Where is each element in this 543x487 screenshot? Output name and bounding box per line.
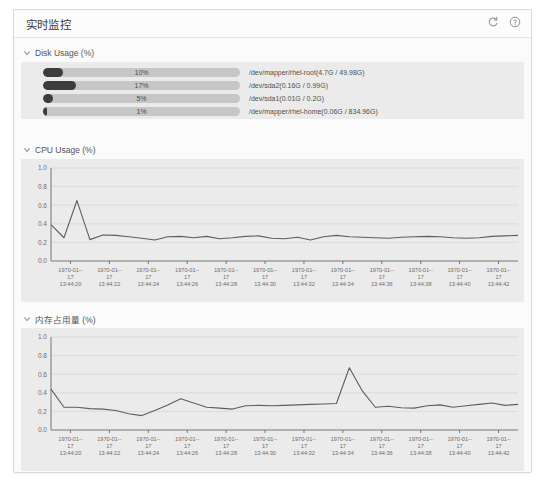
svg-text:1970-01--: 1970-01--	[136, 436, 160, 442]
svg-text:13:44:38: 13:44:38	[410, 450, 432, 456]
svg-text:13:44:20: 13:44:20	[60, 281, 82, 287]
chevron-down-icon[interactable]	[23, 146, 31, 154]
svg-text:13:44:20: 13:44:20	[60, 450, 82, 456]
disk-usage-body: 10% /dev/mapper/rhel-root(4.7G / 49.98G)…	[21, 62, 524, 119]
disk-row: 10% /dev/mapper/rhel-root(4.7G / 49.98G)	[21, 67, 524, 78]
svg-text:0.4: 0.4	[38, 389, 47, 396]
svg-text:17: 17	[184, 274, 190, 280]
disk-percent-label: 10%	[43, 68, 240, 77]
svg-text:1970-01--: 1970-01--	[97, 267, 121, 273]
svg-text:1970-01--: 1970-01--	[331, 436, 355, 442]
section-cpu-usage: CPU Usage (%) 0.00.20.40.60.81.01970-01-…	[14, 143, 531, 302]
svg-text:1970-01--: 1970-01--	[253, 436, 277, 442]
svg-text:0.2: 0.2	[38, 239, 47, 246]
svg-text:13:44:30: 13:44:30	[254, 281, 276, 287]
svg-text:13:44:26: 13:44:26	[176, 281, 198, 287]
disk-mount-label: /dev/mapper/rhel-home(0.06G / 834.96G)	[249, 108, 378, 115]
disk-row: 1% /dev/mapper/rhel-home(0.06G / 834.96G…	[21, 106, 524, 117]
cpu-usage-chart[interactable]: 0.00.20.40.60.81.01970-01--1713:44:20197…	[21, 159, 524, 302]
svg-text:13:44:28: 13:44:28	[215, 450, 237, 456]
disk-mount-label: /dev/sda1(0.01G / 0.2G)	[249, 95, 324, 102]
svg-text:13:44:28: 13:44:28	[215, 281, 237, 287]
memory-chart-body: 0.00.20.40.60.81.01970-01--1713:44:20197…	[21, 328, 524, 471]
svg-text:17: 17	[223, 274, 229, 280]
svg-text:0.0: 0.0	[38, 426, 47, 433]
disk-row: 5% /dev/sda1(0.01G / 0.2G)	[21, 93, 524, 104]
svg-text:17: 17	[457, 274, 463, 280]
help-icon[interactable]	[509, 16, 521, 28]
svg-text:1970-01--: 1970-01--	[409, 267, 433, 273]
svg-text:13:44:42: 13:44:42	[488, 281, 510, 287]
svg-text:1970-01--: 1970-01--	[292, 267, 316, 273]
disk-progress-bar: 17%	[43, 81, 240, 90]
chevron-down-icon[interactable]	[23, 315, 31, 323]
svg-text:17: 17	[223, 443, 229, 449]
svg-text:13:44:42: 13:44:42	[488, 450, 510, 456]
svg-text:13:44:38: 13:44:38	[410, 281, 432, 287]
svg-text:13:44:34: 13:44:34	[332, 281, 354, 287]
disk-mount-label: /dev/mapper/rhel-root(4.7G / 49.98G)	[249, 69, 365, 76]
svg-text:1970-01--: 1970-01--	[292, 436, 316, 442]
svg-text:17: 17	[340, 274, 346, 280]
section-memory-usage: 内存占用量 (%) 0.00.20.40.60.81.01970-01--171…	[14, 312, 531, 471]
svg-text:1970-01--: 1970-01--	[58, 267, 82, 273]
svg-text:1970-01--: 1970-01--	[58, 436, 82, 442]
svg-text:17: 17	[184, 443, 190, 449]
svg-text:17: 17	[67, 443, 73, 449]
svg-text:1970-01--: 1970-01--	[175, 436, 199, 442]
svg-text:1970-01--: 1970-01--	[486, 436, 510, 442]
svg-text:17: 17	[67, 274, 73, 280]
disk-percent-label: 17%	[43, 81, 240, 90]
section-header-disk[interactable]: Disk Usage (%)	[14, 46, 531, 60]
svg-text:13:44:40: 13:44:40	[449, 450, 471, 456]
svg-text:17: 17	[379, 443, 385, 449]
svg-text:13:44:22: 13:44:22	[98, 450, 120, 456]
svg-text:1970-01--: 1970-01--	[370, 267, 394, 273]
monitor-panel: 实时监控	[13, 9, 532, 473]
svg-text:17: 17	[145, 443, 151, 449]
svg-text:13:44:32: 13:44:32	[293, 281, 315, 287]
svg-text:17: 17	[418, 274, 424, 280]
svg-text:1970-01--: 1970-01--	[175, 267, 199, 273]
svg-text:17: 17	[379, 274, 385, 280]
svg-text:13:44:34: 13:44:34	[332, 450, 354, 456]
svg-text:1970-01--: 1970-01--	[253, 267, 277, 273]
svg-text:17: 17	[340, 443, 346, 449]
svg-text:0.6: 0.6	[38, 371, 47, 378]
header-actions	[487, 16, 521, 28]
svg-text:13:44:36: 13:44:36	[371, 450, 393, 456]
svg-text:17: 17	[495, 443, 501, 449]
section-header-memory[interactable]: 内存占用量 (%)	[14, 312, 531, 326]
svg-text:17: 17	[301, 274, 307, 280]
panel-header: 实时监控	[14, 10, 531, 38]
svg-text:1970-01--: 1970-01--	[486, 267, 510, 273]
svg-text:17: 17	[106, 443, 112, 449]
svg-text:13:44:24: 13:44:24	[137, 281, 159, 287]
svg-text:13:44:30: 13:44:30	[254, 450, 276, 456]
svg-text:13:44:22: 13:44:22	[98, 281, 120, 287]
section-title-disk: Disk Usage (%)	[35, 48, 94, 58]
svg-text:1970-01--: 1970-01--	[214, 436, 238, 442]
svg-text:17: 17	[145, 274, 151, 280]
svg-text:1970-01--: 1970-01--	[447, 267, 471, 273]
disk-row: 17% /dev/sda2(0.16G / 0.99G)	[21, 80, 524, 91]
section-header-cpu[interactable]: CPU Usage (%)	[14, 143, 531, 157]
svg-text:17: 17	[301, 443, 307, 449]
section-disk-usage: Disk Usage (%) 10% /dev/mapper/rhel-root…	[14, 46, 531, 119]
disk-percent-label: 1%	[43, 107, 240, 116]
svg-text:1970-01--: 1970-01--	[370, 436, 394, 442]
svg-text:1970-01--: 1970-01--	[331, 267, 355, 273]
svg-text:0.0: 0.0	[38, 257, 47, 264]
chevron-down-icon[interactable]	[23, 49, 31, 57]
svg-text:17: 17	[262, 443, 268, 449]
realtime-monitor-page: 实时监控	[0, 0, 543, 487]
svg-text:17: 17	[457, 443, 463, 449]
svg-text:1970-01--: 1970-01--	[447, 436, 471, 442]
svg-text:1970-01--: 1970-01--	[214, 267, 238, 273]
svg-text:0.4: 0.4	[38, 220, 47, 227]
memory-usage-chart[interactable]: 0.00.20.40.60.81.01970-01--1713:44:20197…	[21, 328, 524, 471]
refresh-icon[interactable]	[487, 16, 499, 28]
svg-text:13:44:36: 13:44:36	[371, 281, 393, 287]
svg-text:13:44:26: 13:44:26	[176, 450, 198, 456]
svg-text:13:44:24: 13:44:24	[137, 450, 159, 456]
